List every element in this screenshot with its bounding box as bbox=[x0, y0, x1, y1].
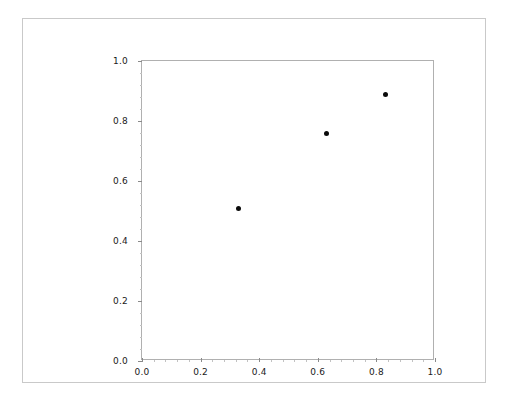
x-axis-tick-label: 0.6 bbox=[310, 367, 325, 377]
x-axis-tick-label: 0.0 bbox=[135, 367, 150, 377]
x-axis-minor-tick bbox=[365, 360, 366, 362]
y-axis-tick-label: 0.6 bbox=[113, 176, 128, 186]
x-axis-minor-tick bbox=[271, 360, 272, 362]
x-axis-minor-tick bbox=[388, 360, 389, 362]
y-axis-tick-label: 1.0 bbox=[113, 56, 128, 66]
y-axis-tick-label: 0.8 bbox=[113, 116, 128, 126]
y-axis-tick-label: 0.4 bbox=[113, 236, 128, 246]
y-axis-tick-label: 0.0 bbox=[113, 356, 128, 366]
data-point[interactable] bbox=[236, 206, 241, 211]
x-axis-minor-tick bbox=[341, 360, 342, 362]
x-axis-minor-tick bbox=[423, 360, 424, 362]
x-axis-minor-tick bbox=[236, 360, 237, 362]
x-axis-minor-tick bbox=[306, 360, 307, 362]
y-axis-major-tick bbox=[138, 361, 142, 362]
x-axis-minor-tick bbox=[189, 360, 190, 362]
x-axis-minor-tick bbox=[283, 360, 284, 362]
x-axis-minor-tick bbox=[330, 360, 331, 362]
x-axis-minor-tick bbox=[353, 360, 354, 362]
x-axis-minor-tick bbox=[294, 360, 295, 362]
data-point[interactable] bbox=[383, 92, 388, 97]
x-axis-tick-label: 0.4 bbox=[252, 367, 267, 377]
plot-axes-area[interactable]: 0.00.20.40.60.81.00.00.20.40.60.81.0 bbox=[141, 60, 434, 360]
x-axis-major-tick bbox=[435, 358, 436, 362]
x-axis-minor-tick bbox=[177, 360, 178, 362]
y-axis-tick-label: 0.2 bbox=[113, 296, 128, 306]
x-axis-tick-label: 1.0 bbox=[428, 367, 443, 377]
x-axis-minor-tick bbox=[165, 360, 166, 362]
figure-frame: 0.00.20.40.60.81.00.00.20.40.60.81.0 bbox=[22, 18, 486, 383]
x-axis-minor-tick bbox=[412, 360, 413, 362]
x-axis-minor-tick bbox=[224, 360, 225, 362]
scatter-data-layer bbox=[142, 61, 433, 359]
figure-root: 0.00.20.40.60.81.00.00.20.40.60.81.0 bbox=[0, 0, 507, 399]
x-axis-tick-label: 0.8 bbox=[369, 367, 384, 377]
x-axis-minor-tick bbox=[247, 360, 248, 362]
x-axis-minor-tick bbox=[400, 360, 401, 362]
x-axis-minor-tick bbox=[212, 360, 213, 362]
x-axis-minor-tick bbox=[154, 360, 155, 362]
x-axis-tick-label: 0.2 bbox=[193, 367, 208, 377]
data-point[interactable] bbox=[324, 131, 329, 136]
